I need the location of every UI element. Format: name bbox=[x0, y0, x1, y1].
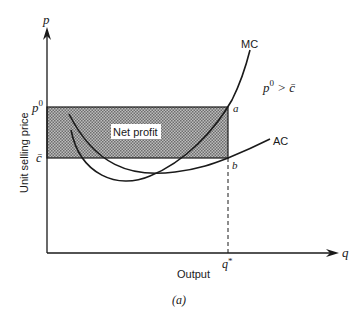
point-b-label: b bbox=[232, 159, 238, 171]
net-profit-label: Net profit bbox=[113, 126, 158, 138]
y-axis-label: Unit selling price bbox=[18, 112, 30, 193]
condition-label: p0>c̄ bbox=[262, 78, 296, 95]
figure-caption: (a) bbox=[172, 293, 186, 307]
price-level-label: p0 bbox=[31, 98, 44, 115]
quantity-label: q* bbox=[222, 256, 233, 271]
cost-level-label: c̄ bbox=[36, 150, 43, 165]
x-axis-symbol: q bbox=[342, 245, 349, 260]
point-a-label: a bbox=[233, 102, 239, 114]
x-axis-label: Output bbox=[177, 268, 210, 280]
y-axis-symbol: p bbox=[42, 12, 50, 27]
mc-label: MC bbox=[241, 38, 258, 50]
ac-label: AC bbox=[273, 135, 288, 147]
profit-diagram: Net profit p q Unit selling price Output… bbox=[0, 0, 362, 320]
